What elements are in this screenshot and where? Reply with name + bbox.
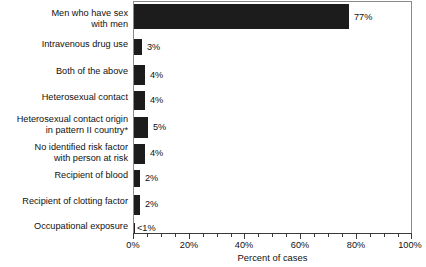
- plot-area: 77% 3% 4% 4% 5% 4% 2% 2% <1%: [133, 1, 412, 233]
- bar-value-label: <1%: [137, 223, 156, 233]
- category-label-column: Men who have sex with men Intravenous dr…: [0, 0, 130, 233]
- bar-value-label: 77%: [354, 12, 372, 22]
- bar: [134, 195, 140, 215]
- category-label: Heterosexual contact: [0, 92, 128, 103]
- x-axis-tick-major: [133, 234, 134, 239]
- x-axis-tick-label: 20%: [169, 240, 209, 251]
- x-axis-tick-minor: [286, 234, 287, 237]
- x-axis-tick-minor: [217, 234, 218, 237]
- x-axis-tick-minor: [342, 234, 343, 237]
- category-label: Occupational exposure: [0, 221, 128, 232]
- x-axis-tick-minor: [328, 234, 329, 237]
- x-axis-tick-label: 0%: [113, 240, 153, 251]
- bar: [134, 170, 140, 187]
- bar: [134, 144, 145, 164]
- category-label: No identified risk factor with person at…: [0, 142, 128, 163]
- bar-value-label: 4%: [150, 95, 163, 105]
- x-axis-tick-minor: [147, 234, 148, 237]
- bar: [134, 39, 142, 55]
- x-axis-tick-minor: [314, 234, 315, 237]
- category-label: Heterosexual contact origin in pattern I…: [0, 114, 128, 135]
- x-axis-tick-major: [189, 234, 190, 239]
- x-axis-tick-minor: [272, 234, 273, 237]
- category-label: Intravenous drug use: [0, 39, 128, 50]
- x-axis-tick-minor: [370, 234, 371, 237]
- x-axis-tick-minor: [384, 234, 385, 237]
- x-axis-tick-minor: [398, 234, 399, 237]
- category-label: Recipient of clotting factor: [0, 196, 128, 207]
- bar: [134, 65, 145, 85]
- bar: [134, 4, 349, 29]
- x-axis-tick-major: [300, 234, 301, 239]
- x-axis-tick-minor: [258, 234, 259, 237]
- x-axis-tick-major: [411, 234, 412, 239]
- x-axis-tick-major: [356, 234, 357, 239]
- category-label: Both of the above: [0, 66, 128, 77]
- category-label: Recipient of blood: [0, 170, 128, 181]
- bar-value-label: 5%: [153, 122, 166, 132]
- bar: [134, 117, 148, 138]
- x-axis-tick-minor: [231, 234, 232, 237]
- x-axis-tick-minor: [203, 234, 204, 237]
- x-axis-tick-minor: [175, 234, 176, 237]
- x-axis-tick-major: [244, 234, 245, 239]
- x-axis-tick-label: 60%: [280, 240, 320, 251]
- x-axis-tick-label: 100%: [390, 240, 426, 251]
- bar-value-label: 2%: [145, 173, 158, 183]
- x-axis-tick-label: 80%: [336, 240, 376, 251]
- bar-value-label: 2%: [145, 199, 158, 209]
- bar-value-label: 4%: [150, 70, 163, 80]
- x-axis-title: Percent of cases: [133, 252, 412, 263]
- category-label: Men who have sex with men: [0, 8, 128, 29]
- bar: [134, 91, 145, 110]
- x-axis-tick-minor: [161, 234, 162, 237]
- x-axis-tick-label: 40%: [224, 240, 264, 251]
- bar-value-label: 4%: [150, 148, 163, 158]
- bar-value-label: 3%: [147, 42, 160, 52]
